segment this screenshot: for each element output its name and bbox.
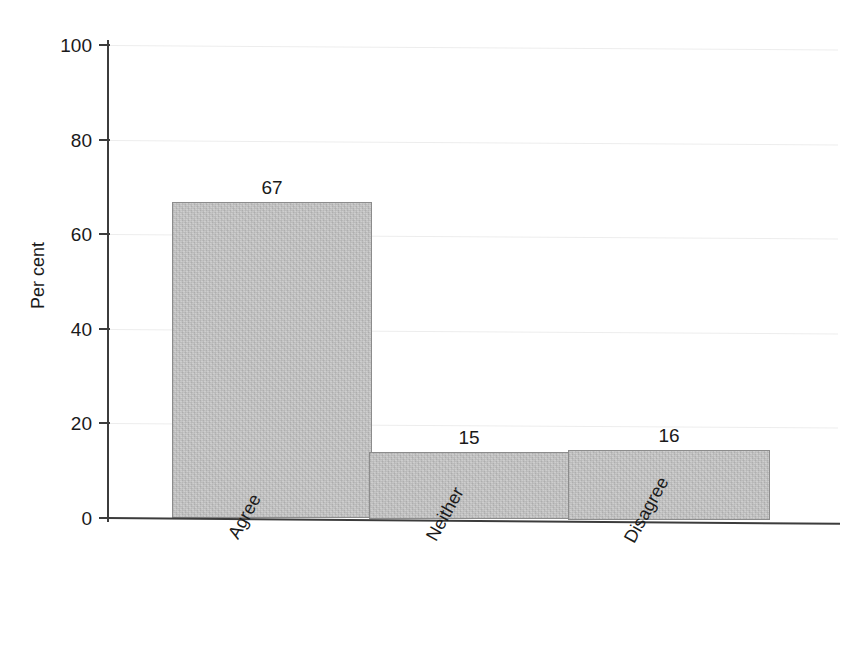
bar-value-disagree: 16	[619, 426, 719, 445]
y-tick-60	[99, 233, 110, 235]
bar-agree	[172, 202, 372, 518]
y-tick-80	[99, 139, 110, 141]
y-tick-label-100: 100	[48, 36, 92, 55]
page-header	[600, 0, 840, 8]
bar-neither	[369, 452, 569, 519]
y-tick-100	[99, 44, 110, 46]
y-axis-line	[107, 40, 109, 522]
bar-chart-figure: 100 80 60 40 20 0 Per cent 67 15 16 Agre…	[0, 0, 849, 646]
y-tick-40	[99, 328, 110, 330]
gridline-100	[110, 45, 838, 50]
bar-value-agree: 67	[222, 178, 322, 197]
y-tick-label-40: 40	[48, 320, 92, 339]
y-axis-title: Per cent	[28, 221, 49, 331]
y-tick-label-80: 80	[48, 131, 92, 150]
y-tick-label-60: 60	[48, 225, 92, 244]
bar-value-neither: 15	[419, 428, 519, 447]
y-tick-20	[99, 422, 110, 424]
y-tick-label-20: 20	[48, 414, 92, 433]
figure-caption	[118, 628, 738, 646]
gridline-80	[110, 140, 838, 145]
y-tick-label-0: 0	[48, 509, 92, 528]
